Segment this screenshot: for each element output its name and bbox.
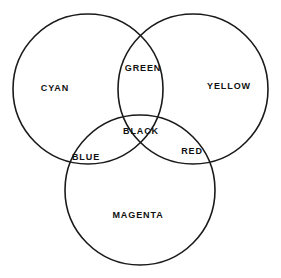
region-label-black: BLACK (123, 127, 159, 136)
region-label-green: GREEN (125, 64, 162, 73)
magenta-circle (65, 115, 215, 265)
region-label-red: RED (181, 147, 203, 156)
region-label-blue: BLUE (72, 153, 100, 162)
venn-diagram: CYAN GREEN YELLOW BLACK BLUE RED MAGENTA (0, 0, 281, 278)
region-label-yellow: YELLOW (207, 82, 251, 91)
venn-circles-canvas (0, 0, 281, 278)
region-label-magenta: MAGENTA (112, 211, 163, 220)
region-label-cyan: CYAN (41, 84, 69, 93)
